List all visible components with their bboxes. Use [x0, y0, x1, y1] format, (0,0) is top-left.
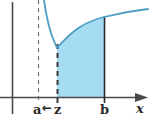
figure-canvas — [0, 0, 151, 121]
x-tick-label-a: a — [33, 103, 41, 116]
x-tick-label-z: z — [54, 103, 61, 116]
exponential-decay-figure: a ← z b x — [0, 0, 151, 121]
x-tick-label-b: b — [100, 103, 109, 116]
a-to-z-arrow-icon: ← — [42, 102, 52, 114]
shaded-area-under-curve — [57, 17, 104, 97]
x-axis-label: x — [136, 102, 144, 115]
